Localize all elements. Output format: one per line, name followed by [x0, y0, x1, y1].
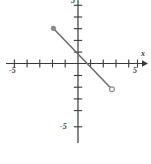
- closed-endpoint-marker: [51, 26, 56, 31]
- x-axis-arrow-icon: [142, 60, 148, 67]
- x-axis-tick-label-negative-five: -5: [9, 67, 16, 75]
- x-axis-tick-label-positive-five: 5: [133, 67, 137, 75]
- coordinate-plane-graph: -5 5 -5 5 x: [0, 0, 151, 164]
- graph-canvas: [0, 0, 151, 164]
- x-axis-name-label: x: [141, 50, 145, 58]
- open-endpoint-marker: [110, 87, 115, 92]
- y-axis-tick-label-positive-five: 5: [71, 0, 75, 5]
- y-axis-tick-label-negative-five: -5: [60, 123, 67, 131]
- data-line-segment: [53, 28, 112, 89]
